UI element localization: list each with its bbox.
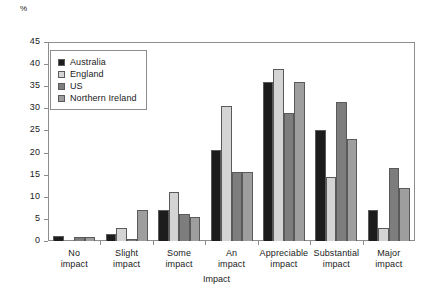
bar — [221, 106, 232, 241]
bar — [326, 177, 337, 241]
bar — [315, 130, 326, 241]
x-axis-category-label-line: Major — [357, 248, 421, 259]
legend-swatch-icon — [58, 95, 65, 102]
bar — [169, 192, 180, 241]
bar — [85, 237, 96, 241]
bar — [347, 139, 358, 241]
legend-swatch-icon — [58, 83, 65, 90]
bar — [179, 214, 190, 241]
bar — [368, 210, 379, 241]
legend-item: Australia — [58, 56, 137, 68]
x-axis-category-label: Majorimpact — [357, 248, 421, 270]
x-axis-category-label-line: impact — [357, 259, 421, 270]
legend-item: Northern Ireland — [58, 92, 137, 104]
bar — [137, 210, 148, 241]
bar — [273, 69, 284, 241]
bar — [378, 228, 389, 241]
legend-item: England — [58, 68, 137, 80]
bar — [389, 168, 400, 241]
legend-item-label: Northern Ireland — [70, 93, 137, 103]
x-axis-title: Impact — [0, 274, 433, 284]
bar — [294, 82, 305, 241]
legend-item-label: US — [70, 81, 83, 91]
grouped-bar-chart: % 051015202530354045 NoimpactSlightimpac… — [0, 0, 433, 291]
legend-item-label: Australia — [70, 57, 106, 67]
bar — [284, 113, 295, 241]
legend-swatch-icon — [58, 59, 65, 66]
legend-item-label: England — [70, 69, 104, 79]
bar — [116, 228, 127, 241]
bar — [74, 237, 85, 241]
bar — [211, 150, 222, 241]
bar — [263, 82, 274, 241]
bar — [232, 172, 243, 241]
bar — [53, 236, 64, 241]
bar — [242, 172, 253, 241]
chart-legend: AustraliaEnglandUSNorthern Ireland — [50, 50, 147, 110]
bar — [158, 210, 169, 241]
bar — [106, 234, 117, 241]
bar — [399, 188, 410, 241]
bar — [336, 102, 347, 241]
bar — [127, 239, 138, 241]
legend-item: US — [58, 80, 137, 92]
legend-swatch-icon — [58, 71, 65, 78]
bar — [190, 217, 201, 241]
